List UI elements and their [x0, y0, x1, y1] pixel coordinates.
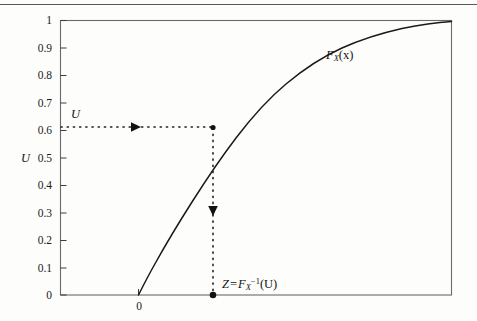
- z-annotation-fn-exponent: −1: [251, 276, 260, 286]
- y-tick-label-0.2: 0.2: [22, 235, 52, 247]
- z-annotation-lhs: Z: [222, 277, 229, 291]
- y-tick-label-0.7: 0.7: [22, 98, 52, 110]
- y-tick-label-0.1: 0.1: [22, 263, 52, 275]
- z-point-marker: [210, 292, 217, 299]
- curve-label: FX(x): [326, 49, 353, 63]
- intersection-point-marker: [210, 125, 215, 130]
- z-annotation-fn: F: [238, 277, 246, 291]
- y-axis-ticks: [61, 21, 67, 296]
- y-axis-title: U: [21, 152, 30, 165]
- y-tick-label-0.9: 0.9: [22, 43, 52, 55]
- y-tick-label-0.4: 0.4: [22, 180, 52, 192]
- x-tick-label-0: 0: [128, 301, 150, 313]
- y-tick-label-0: 0: [22, 290, 52, 302]
- figure-page: 1 0.9 0.8 0.7 0.6 0.5 0.4 0.3 0.2 0.1 0 …: [0, 0, 477, 321]
- down-arrow-icon: [208, 206, 218, 216]
- z-annotation: Z=FX−1(U): [222, 277, 277, 291]
- z-annotation-operator: =: [229, 277, 238, 291]
- y-tick-label-0.3: 0.3: [22, 208, 52, 220]
- cdf-curve: [139, 22, 452, 295]
- y-tick-label-0.8: 0.8: [22, 70, 52, 82]
- curve-label-base: F: [326, 48, 334, 62]
- y-tick-label-0.6: 0.6: [22, 125, 52, 137]
- u-level-label: U: [71, 108, 80, 121]
- z-annotation-argument: (U): [260, 277, 277, 291]
- plot-frame: [61, 21, 452, 296]
- right-arrow-icon: [131, 122, 141, 132]
- plot-canvas: [0, 0, 477, 321]
- y-tick-label-1: 1: [22, 15, 52, 27]
- curve-label-argument: (x): [339, 48, 354, 62]
